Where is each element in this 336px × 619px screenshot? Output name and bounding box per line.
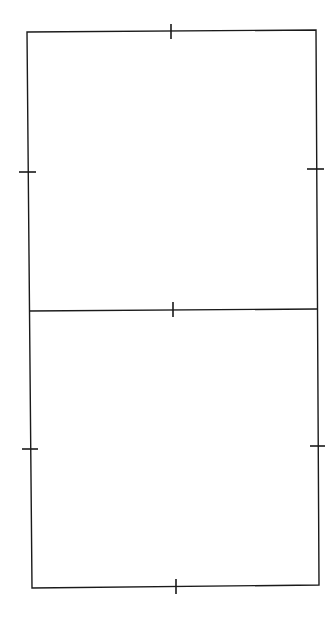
diagram-canvas xyxy=(0,0,336,619)
